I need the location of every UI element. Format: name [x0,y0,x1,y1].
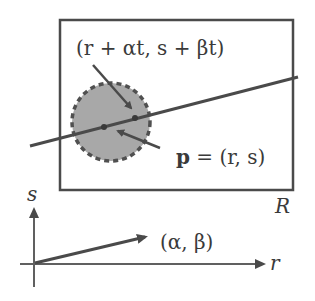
point-p-label: p = (r, s) [176,145,265,169]
point-p-coords: = (r, s) [190,145,265,169]
direction-vector [35,237,145,263]
region-label: R [274,194,290,218]
point-p [101,124,107,130]
direction-line [30,77,298,146]
s-axis-label: s [27,182,37,206]
diagram: (r + αt, s + βt) p = (r, s) R s r (α, β) [0,0,315,301]
point-p-bold: p [176,145,190,169]
moved-point-label: (r + αt, s + βt) [76,36,224,60]
point-moved [132,115,138,121]
r-axis-label: r [270,251,281,275]
neighborhood-disk [72,83,150,161]
direction-vector-label: (α, β) [160,230,213,254]
